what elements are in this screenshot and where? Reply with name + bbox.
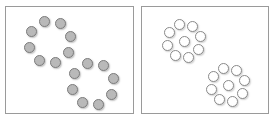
circle-left-bottom-ring-4: [106, 89, 117, 100]
circle-right-bottom-ring-2: [231, 65, 242, 76]
circle-right-top-ring-7: [162, 40, 173, 51]
circle-right-bottom-ring-7: [206, 84, 217, 95]
circle-left-top-ring-2: [55, 18, 66, 29]
circle-left-bottom-ring-6: [77, 97, 88, 108]
circle-left-top-ring-1: [39, 16, 50, 27]
circle-right-bottom-ring-8: [208, 71, 219, 82]
circle-left-bottom-ring-1: [82, 58, 93, 69]
circle-right-top-ring-3: [195, 31, 206, 42]
circle-right-bottom-ring-6: [214, 94, 225, 105]
circle-right-top-ring-8: [164, 27, 175, 38]
circle-right-top-center: [179, 36, 190, 47]
circle-left-top-ring-8: [26, 26, 37, 37]
circle-left-bottom-ring-5: [93, 99, 104, 110]
circle-left-top-ring-7: [24, 42, 35, 53]
circle-right-bottom-ring-3: [239, 75, 250, 86]
circle-left-top-ring-5: [50, 57, 61, 68]
circle-left-top-ring-4: [63, 47, 74, 58]
circle-right-bottom-ring-5: [227, 96, 238, 107]
circle-left-bottom-ring-7: [67, 84, 78, 95]
circle-left-top-ring-3: [65, 31, 76, 42]
circle-left-top-ring-6: [34, 55, 45, 66]
circle-left-bottom-ring-8: [69, 68, 80, 79]
circle-right-bottom-ring-4: [237, 88, 248, 99]
circle-right-bottom-center: [223, 80, 234, 91]
stimulus-root: [0, 0, 276, 125]
circle-right-top-ring-2: [187, 21, 198, 32]
circle-right-top-ring-6: [170, 50, 181, 61]
panel-left: [5, 6, 134, 114]
circle-right-top-ring-4: [193, 44, 204, 55]
panel-right: [141, 6, 269, 114]
circle-left-bottom-ring-3: [108, 73, 119, 84]
circle-right-top-ring-1: [174, 19, 185, 30]
circle-right-top-ring-5: [183, 52, 194, 63]
circle-right-bottom-ring-1: [218, 63, 229, 74]
circle-left-bottom-ring-2: [98, 60, 109, 71]
